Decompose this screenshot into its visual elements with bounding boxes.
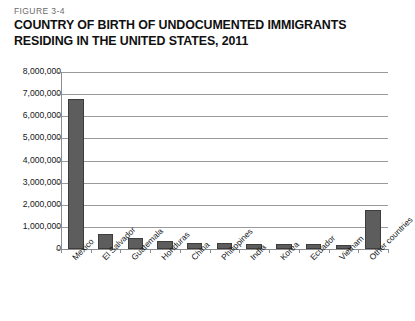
y-axis-tick-label: 6,000,000 (9, 110, 61, 120)
x-axis-tick-mark (299, 249, 300, 253)
y-axis-tick-label: 4,000,000 (9, 155, 61, 165)
x-axis-tick-mark (269, 249, 270, 253)
x-axis-tick-mark (120, 249, 121, 253)
x-axis-tick-mark (91, 249, 92, 253)
x-axis-tick-mark (61, 249, 62, 253)
y-axis-tick-label: 8,000,000 (9, 66, 61, 76)
bar-series (61, 72, 388, 249)
figure-number-label: FIGURE 3-4 (14, 6, 65, 16)
y-axis-tick-label: 7,000,000 (9, 88, 61, 98)
x-axis-tick-mark (358, 249, 359, 253)
x-axis-tick-mark (180, 249, 181, 253)
y-axis-tick-label: 1,000,000 (9, 221, 61, 231)
x-axis-tick-mark (239, 249, 240, 253)
y-axis-tick-label: 3,000,000 (9, 177, 61, 187)
x-axis-tick-mark (388, 249, 389, 253)
x-axis-tick-mark (329, 249, 330, 253)
x-axis-tick-mark (210, 249, 211, 253)
figure-title: COUNTRY OF BIRTH OF UNDOCUMENTED IMMIGRA… (14, 18, 386, 49)
bar (68, 99, 83, 249)
y-axis-tick-label: 2,000,000 (9, 199, 61, 209)
y-axis-tick-label: 0 (9, 243, 61, 253)
y-axis-tick-label: 5,000,000 (9, 132, 61, 142)
figure-title-line-1: COUNTRY OF BIRTH OF UNDOCUMENTED IMMIGRA… (14, 18, 346, 32)
figure-title-line-2: RESIDING IN THE UNITED STATES, 2011 (14, 34, 386, 50)
x-axis-tick-mark (150, 249, 151, 253)
y-axis-tick-group: 01,000,0002,000,0003,000,0004,000,0005,0… (0, 72, 61, 250)
